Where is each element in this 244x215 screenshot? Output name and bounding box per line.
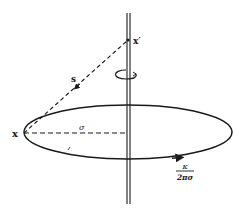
vortex-diagram: x x′ s σ κ 2πσ [0,0,244,215]
ring-tick-mark [68,147,70,150]
label-s: s [71,74,76,84]
distance-line-s [24,40,128,133]
label-x: x [12,128,19,139]
label-sigma: σ [79,123,85,132]
point-x-prime-marker [126,38,129,41]
label-x-prime: x′ [133,36,141,46]
vortex-ring [24,105,232,159]
rotation-loop-icon [116,70,137,79]
label-2-pi-sigma: 2πσ [176,173,194,182]
label-kappa: κ [181,162,188,171]
ring-flow-arrow-icon [172,158,180,159]
